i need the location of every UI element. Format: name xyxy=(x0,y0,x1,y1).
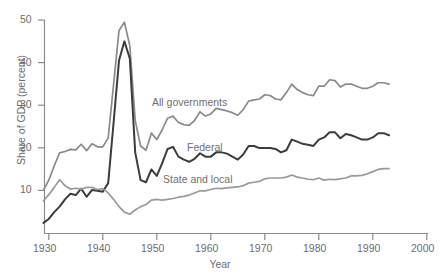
x-tick-label-1960: 1960 xyxy=(195,242,218,254)
x-tick-label-1990: 1990 xyxy=(357,242,380,254)
figure-caption-partial xyxy=(8,271,432,276)
y-tick-label-50: 50 xyxy=(20,13,32,25)
series-line-federal xyxy=(43,41,389,222)
x-tick-label-1930: 1930 xyxy=(33,242,56,254)
line-chart-plot xyxy=(0,0,440,276)
y-tick-label-10: 10 xyxy=(20,183,32,195)
x-tick-label-2000: 2000 xyxy=(411,242,434,254)
y-axis-title: Share of GDP (percent) xyxy=(15,45,27,175)
x-tick-label-1970: 1970 xyxy=(249,242,272,254)
x-axis-title: Year xyxy=(0,258,440,270)
series-label-federal: Federal xyxy=(187,141,223,153)
series-label-state-and-local: State and local xyxy=(163,173,232,185)
series-lines-group xyxy=(43,22,389,223)
series-label-all-governments: All governments xyxy=(152,96,227,108)
axes-group xyxy=(38,20,428,240)
y-axis-ticks xyxy=(38,20,45,190)
x-tick-label-1980: 1980 xyxy=(303,242,326,254)
x-axis-ticks xyxy=(49,234,427,241)
figure-container: 50 40 30 20 10 1930 1940 1950 1960 1970 … xyxy=(0,0,440,276)
x-tick-label-1950: 1950 xyxy=(141,242,164,254)
x-tick-label-1940: 1940 xyxy=(87,242,110,254)
